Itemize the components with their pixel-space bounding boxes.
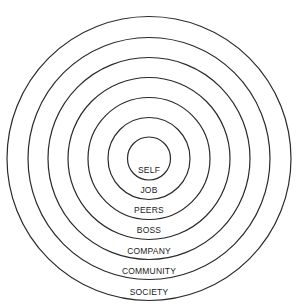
ring-label-self: SELF: [138, 165, 160, 175]
ring-label-job: JOB: [140, 185, 157, 195]
ring-label-company: COMPANY: [127, 246, 171, 256]
ring-label-community: COMMUNITY: [122, 266, 176, 276]
ring-label-peers: PEERS: [134, 205, 164, 215]
ring-society: [7, 17, 291, 301]
ring-community: [28, 38, 270, 280]
concentric-circles-diagram: SELFJOBPEERSBOSSCOMPANYCOMMUNITYSOCIETY: [0, 0, 296, 307]
ring-label-society: SOCIETY: [130, 287, 169, 297]
ring-label-boss: BOSS: [137, 225, 162, 235]
ring-peers: [88, 98, 210, 220]
ring-boss: [68, 78, 230, 240]
